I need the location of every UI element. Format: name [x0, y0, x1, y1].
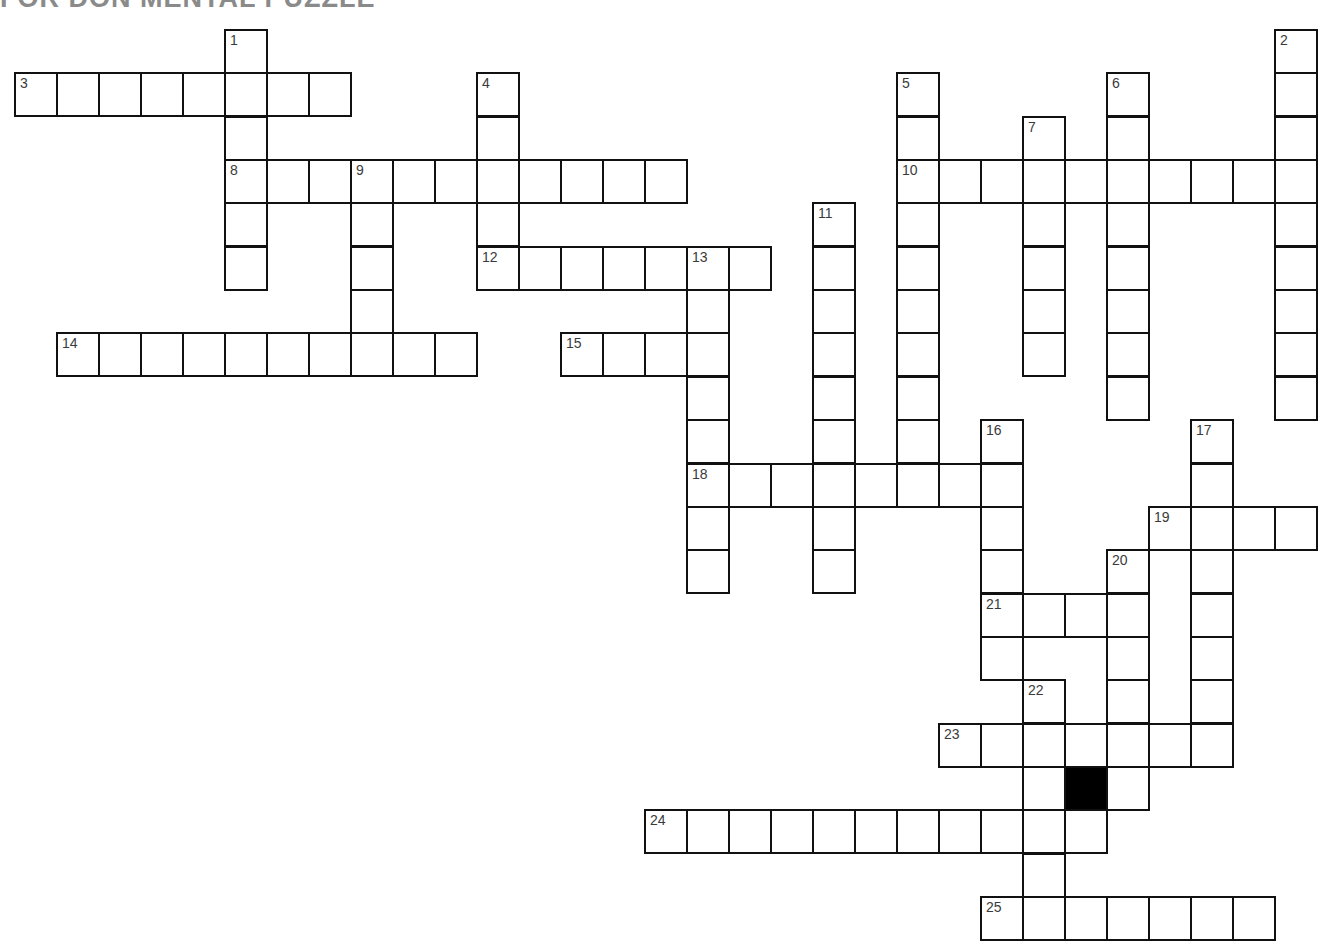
crossword-cell[interactable]: 7: [1022, 116, 1066, 161]
cell-letter-input[interactable]: [310, 74, 350, 115]
crossword-cell[interactable]: [602, 246, 646, 291]
crossword-cell[interactable]: [728, 809, 772, 854]
cell-letter-input[interactable]: [814, 204, 854, 245]
cell-letter-input[interactable]: [1024, 334, 1064, 375]
cell-letter-input[interactable]: [478, 204, 518, 245]
cell-letter-input[interactable]: [646, 161, 686, 202]
cell-letter-input[interactable]: [436, 161, 476, 202]
cell-letter-input[interactable]: [688, 421, 728, 462]
crossword-cell[interactable]: [1190, 506, 1234, 551]
cell-letter-input[interactable]: [562, 248, 602, 289]
crossword-cell[interactable]: [224, 116, 268, 161]
cell-letter-input[interactable]: [226, 204, 266, 245]
cell-letter-input[interactable]: [520, 161, 560, 202]
crossword-cell[interactable]: [1274, 72, 1318, 117]
cell-letter-input[interactable]: [814, 291, 854, 332]
cell-letter-input[interactable]: [100, 74, 140, 115]
cell-letter-input[interactable]: [478, 248, 518, 289]
cell-letter-input[interactable]: [226, 161, 266, 202]
crossword-cell[interactable]: [1148, 723, 1192, 768]
crossword-cell[interactable]: [224, 202, 268, 247]
crossword-cell[interactable]: [1106, 159, 1150, 204]
cell-letter-input[interactable]: [16, 74, 56, 115]
cell-letter-input[interactable]: [1108, 74, 1148, 115]
crossword-cell[interactable]: [140, 72, 184, 117]
cell-letter-input[interactable]: [352, 204, 392, 245]
crossword-cell[interactable]: [266, 72, 310, 117]
cell-letter-input[interactable]: [1108, 161, 1148, 202]
crossword-cell[interactable]: [1064, 593, 1108, 638]
crossword-cell[interactable]: [980, 506, 1024, 551]
cell-letter-input[interactable]: [982, 595, 1022, 636]
crossword-cell[interactable]: 1: [224, 29, 268, 74]
crossword-cell[interactable]: [434, 159, 478, 204]
crossword-cell[interactable]: [1190, 593, 1234, 638]
crossword-cell[interactable]: 5: [896, 72, 940, 117]
cell-letter-input[interactable]: [814, 378, 854, 419]
cell-letter-input[interactable]: [898, 74, 938, 115]
cell-letter-input[interactable]: [604, 334, 644, 375]
crossword-cell[interactable]: [1106, 202, 1150, 247]
crossword-cell[interactable]: [1190, 159, 1234, 204]
cell-letter-input[interactable]: [1234, 898, 1274, 939]
cell-letter-input[interactable]: [898, 465, 938, 506]
cell-letter-input[interactable]: [982, 161, 1022, 202]
crossword-cell[interactable]: [476, 116, 520, 161]
crossword-cell[interactable]: [1106, 766, 1150, 811]
crossword-cell[interactable]: [1064, 896, 1108, 941]
crossword-cell[interactable]: [812, 549, 856, 594]
cell-letter-input[interactable]: [898, 118, 938, 159]
cell-letter-input[interactable]: [982, 811, 1022, 852]
crossword-cell[interactable]: [98, 72, 142, 117]
crossword-cell[interactable]: [686, 809, 730, 854]
cell-letter-input[interactable]: [1276, 74, 1316, 115]
cell-letter-input[interactable]: [1066, 811, 1106, 852]
cell-letter-input[interactable]: [1192, 595, 1232, 636]
crossword-cell[interactable]: [1106, 376, 1150, 421]
crossword-cell[interactable]: [1274, 159, 1318, 204]
crossword-cell[interactable]: [1022, 246, 1066, 291]
cell-letter-input[interactable]: [982, 508, 1022, 549]
crossword-cell[interactable]: [1232, 896, 1276, 941]
cell-letter-input[interactable]: [1024, 681, 1064, 722]
crossword-cell[interactable]: [1106, 593, 1150, 638]
cell-letter-input[interactable]: [1276, 118, 1316, 159]
cell-letter-input[interactable]: [58, 74, 98, 115]
crossword-cell[interactable]: [854, 463, 898, 508]
crossword-cell[interactable]: [1022, 723, 1066, 768]
crossword-cell[interactable]: [644, 159, 688, 204]
cell-letter-input[interactable]: [352, 334, 392, 375]
cell-letter-input[interactable]: [1108, 768, 1148, 809]
crossword-cell[interactable]: [1064, 159, 1108, 204]
crossword-cell[interactable]: [602, 159, 646, 204]
cell-letter-input[interactable]: [436, 334, 476, 375]
crossword-cell[interactable]: 6: [1106, 72, 1150, 117]
cell-letter-input[interactable]: [940, 465, 980, 506]
crossword-cell[interactable]: 20: [1106, 549, 1150, 594]
crossword-cell[interactable]: [1106, 896, 1150, 941]
cell-letter-input[interactable]: [226, 118, 266, 159]
cell-letter-input[interactable]: [1024, 725, 1064, 766]
cell-letter-input[interactable]: [268, 74, 308, 115]
crossword-cell[interactable]: [224, 246, 268, 291]
crossword-cell[interactable]: [1022, 809, 1066, 854]
cell-letter-input[interactable]: [100, 334, 140, 375]
cell-letter-input[interactable]: [1150, 161, 1190, 202]
crossword-cell[interactable]: [224, 332, 268, 377]
cell-letter-input[interactable]: [982, 551, 1022, 592]
crossword-cell[interactable]: [980, 463, 1024, 508]
cell-letter-input[interactable]: [814, 248, 854, 289]
cell-letter-input[interactable]: [688, 291, 728, 332]
cell-letter-input[interactable]: [1276, 291, 1316, 332]
cell-letter-input[interactable]: [814, 811, 854, 852]
cell-letter-input[interactable]: [856, 811, 896, 852]
cell-letter-input[interactable]: [730, 465, 770, 506]
crossword-cell[interactable]: 9: [350, 159, 394, 204]
cell-letter-input[interactable]: [982, 421, 1022, 462]
cell-letter-input[interactable]: [1276, 378, 1316, 419]
crossword-cell[interactable]: [1106, 289, 1150, 334]
cell-letter-input[interactable]: [688, 465, 728, 506]
cell-letter-input[interactable]: [1108, 378, 1148, 419]
crossword-cell[interactable]: [1274, 376, 1318, 421]
crossword-cell[interactable]: 2: [1274, 29, 1318, 74]
